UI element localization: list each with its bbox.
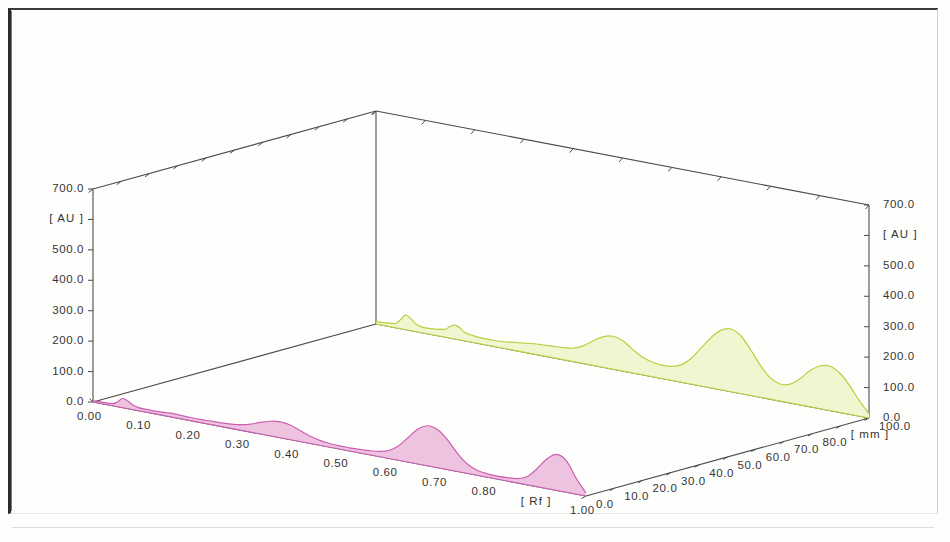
absorbance-axis-left-tick-2: 500.0 bbox=[12, 243, 84, 255]
absorbance-axis-left-tick-4: 300.0 bbox=[12, 304, 84, 316]
absorbance-axis-left-tick-5: 200.0 bbox=[12, 334, 84, 346]
absorbance-axis-right-tick-3: 400.0 bbox=[883, 289, 915, 301]
absorbance-axis-right-tick-4: 300.0 bbox=[883, 320, 915, 332]
absorbance-axis-left-tick-1: [ AU ] bbox=[12, 212, 84, 224]
absorbance-axis-left-tick-6: 100.0 bbox=[12, 365, 84, 377]
rf-axis-tick-1: 0.10 bbox=[126, 419, 151, 431]
absorbance-axis-right-tick-0: 700.0 bbox=[883, 198, 915, 210]
mm-axis-tick-8: 80.0 bbox=[822, 436, 847, 448]
rf-axis-tick-4: 0.40 bbox=[274, 448, 299, 460]
rf-axis-tick-2: 0.20 bbox=[176, 429, 201, 441]
rf-axis-tick-3: 0.30 bbox=[225, 438, 250, 450]
absorbance-axis-left-tick-7: 0.0 bbox=[12, 395, 84, 407]
mm-axis-tick-7: 70.0 bbox=[794, 443, 819, 455]
absorbance-axis-right-tick-6: 100.0 bbox=[883, 381, 915, 393]
densitogram-screenshot: 700.0[ AU ]500.0400.0300.0200.0100.00.0 … bbox=[0, 0, 950, 542]
mm-axis-tick-2: 20.0 bbox=[653, 482, 678, 494]
plot-canvas bbox=[0, 0, 950, 542]
absorbance-axis-right-tick-5: 200.0 bbox=[883, 350, 915, 362]
rf-axis-tick-9: [ Rf ] bbox=[521, 495, 552, 507]
axis-wireframe bbox=[93, 111, 869, 496]
mm-axis-tick-6: 60.0 bbox=[766, 451, 791, 463]
rf-axis-tick-7: 0.70 bbox=[422, 476, 447, 488]
absorbance-axis-left-tick-3: 400.0 bbox=[12, 273, 84, 285]
rf-axis-tick-8: 0.80 bbox=[471, 485, 496, 497]
axis-tick-marks bbox=[88, 111, 869, 499]
rf-axis-tick-10: 1.00 bbox=[570, 504, 595, 516]
mm-axis-tick-10: 100.0 bbox=[879, 420, 911, 432]
trace-track-back bbox=[376, 315, 869, 418]
mm-axis-tick-4: 40.0 bbox=[709, 467, 734, 479]
mm-axis-tick-1: 10.0 bbox=[624, 490, 649, 502]
mm-axis-tick-5: 50.0 bbox=[738, 459, 763, 471]
mm-axis-tick-0: 0.0 bbox=[596, 498, 614, 510]
mm-axis-tick-3: 30.0 bbox=[681, 475, 706, 487]
rf-axis-tick-5: 0.50 bbox=[324, 457, 349, 469]
absorbance-axis-right-tick-2: 500.0 bbox=[883, 259, 915, 271]
absorbance-axis-left-tick-0: 700.0 bbox=[12, 182, 84, 194]
absorbance-axis-right-tick-1: [ AU ] bbox=[883, 228, 918, 240]
rf-axis-tick-0: 0.00 bbox=[77, 410, 102, 422]
rf-axis-tick-6: 0.60 bbox=[373, 466, 398, 478]
trace-track-front bbox=[93, 398, 586, 496]
